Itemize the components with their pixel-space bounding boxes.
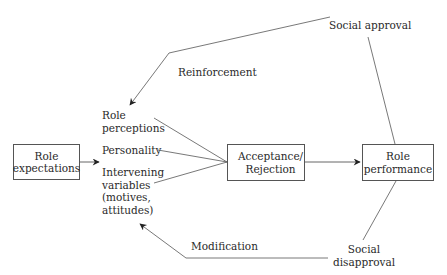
social-disapproval-label: Social disapproval (333, 243, 395, 268)
arrow-reinforcement (130, 17, 330, 105)
line-intervening (154, 162, 227, 183)
line-performance-disapproval (363, 181, 396, 240)
role-perceptions-label: Role perceptions (102, 109, 165, 134)
acceptance-rejection-label: Acceptance/ Rejection (238, 150, 303, 175)
intervening-variables-label: Intervening variables (motives, attitude… (102, 166, 164, 216)
line-approval-performance (368, 37, 395, 144)
personality-label: Personality (102, 144, 161, 157)
social-approval-label: Social approval (329, 19, 411, 32)
acceptance-rejection-box: Acceptance/ Rejection (227, 144, 305, 181)
role-performance-box: Role performance (362, 144, 434, 181)
role-performance-label: Role performance (364, 150, 432, 175)
connector-lines (0, 0, 447, 275)
role-expectations-box: Role expectations (13, 144, 80, 180)
modification-label: Modification (191, 240, 258, 253)
role-expectations-label: Role expectations (13, 150, 80, 175)
reinforcement-label: Reinforcement (178, 66, 257, 79)
